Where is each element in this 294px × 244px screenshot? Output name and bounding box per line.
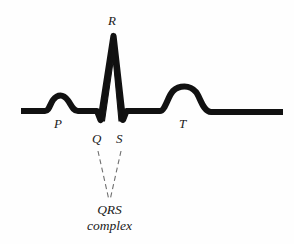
- caption-complex: complex: [0, 219, 294, 233]
- caption-complex-text: complex: [87, 219, 132, 233]
- label-p-wave: P: [54, 117, 62, 130]
- label-s-point: S: [116, 132, 123, 145]
- label-r-peak: R: [108, 14, 116, 27]
- caption-qrs-text: QRS: [97, 203, 122, 217]
- label-t-wave: T: [179, 117, 186, 130]
- caption-qrs: QRS: [0, 203, 294, 217]
- ecg-figure: R P Q S T QRS complex: [0, 0, 294, 244]
- label-q-point: Q: [92, 132, 102, 145]
